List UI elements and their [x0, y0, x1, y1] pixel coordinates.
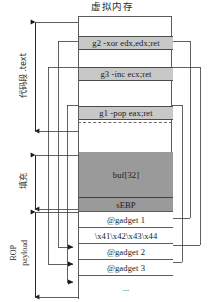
memory-row-ret-g2: @gadget 2 — [79, 243, 173, 259]
label-rop-payload-line2: payload — [20, 230, 30, 276]
memory-row-gadget-g1: g1 -pop eax;ret — [79, 106, 173, 120]
memory-row-label: buf[32] — [113, 170, 139, 180]
memory-row-label: ... — [123, 283, 130, 293]
memory-row-filler: \x41\x42\x43\x44 — [79, 227, 173, 243]
label-rop-payload-line1: ROP — [9, 230, 19, 276]
virtual-memory-column: g2 -xor edx,edx;retg3 -inc ecx;retg1 -po… — [78, 16, 172, 299]
memory-row-ret-g3: @gadget 3 — [79, 259, 173, 275]
memory-row-sebp: sEBP — [79, 197, 173, 211]
label-padding: 填充 — [19, 164, 29, 198]
memory-row-label: g2 -xor edx,edx;ret — [92, 38, 160, 48]
memory-row-ellipsis: ... — [79, 275, 173, 299]
memory-row-label: \x41\x42\x43\x44 — [95, 231, 158, 241]
segment-boundary-dashed — [78, 122, 172, 123]
memory-row-label: @gadget 2 — [107, 247, 145, 257]
memory-row-top-gap — [79, 17, 173, 36]
memory-row-label: @gadget 1 — [107, 215, 145, 225]
memory-row-gap-1 — [79, 50, 173, 67]
memory-row-buf: buf[32] — [79, 152, 173, 197]
label-code-segment: 代码段 .text — [19, 44, 29, 108]
memory-row-gadget-g3: g3 -inc ecx;ret — [79, 67, 173, 81]
rop-memory-diagram: 虚拟内存 代码段 .text 填充 ROP payload g2 -xor ed… — [0, 0, 224, 302]
memory-row-label: g3 -inc ecx;ret — [100, 69, 151, 79]
memory-row-gap-3 — [79, 120, 173, 152]
memory-row-gadget-g2: g2 -xor edx,edx;ret — [79, 36, 173, 50]
memory-row-label: @gadget 3 — [107, 263, 145, 273]
memory-row-ret-g1: @gadget 1 — [79, 211, 173, 227]
memory-row-label: sEBP — [116, 200, 136, 210]
memory-row-gap-2 — [79, 81, 173, 106]
memory-row-label: g1 -pop eax;ret — [99, 108, 153, 118]
page-title: 虚拟内存 — [0, 1, 224, 13]
